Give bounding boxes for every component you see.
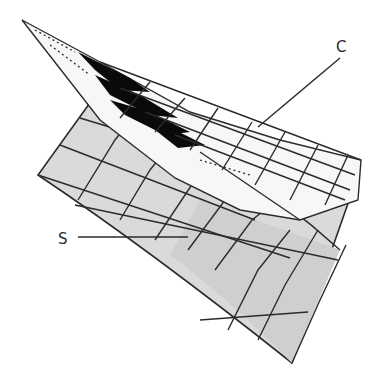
label-s: S (58, 232, 68, 247)
label-c: C (336, 40, 346, 55)
surface-diagram (0, 0, 382, 378)
leader-line-c (258, 58, 340, 127)
